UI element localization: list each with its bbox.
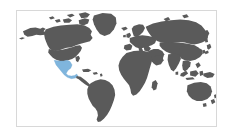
- world-map-canvas[interactable]: [17, 11, 216, 126]
- world-map-widget[interactable]: World map: [16, 10, 217, 127]
- region-tasmania: [203, 103, 207, 107]
